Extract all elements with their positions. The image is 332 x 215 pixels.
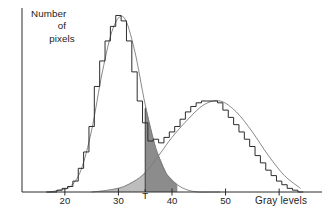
y-axis-label-line-2: of — [31, 20, 93, 32]
histogram-figure: Number of pixels Gray levels 2030T4050 — [0, 0, 332, 215]
x-axis-title: Gray levels — [255, 195, 307, 206]
y-axis-label-line-1: Number — [31, 8, 93, 20]
shaded-error-regions — [49, 105, 178, 192]
shaded-region-object-error-above-threshold — [145, 105, 177, 192]
curve-background-mode-gaussian — [92, 101, 301, 192]
y-axis-label: Number of pixels — [31, 8, 93, 45]
y-axis-label-line-3: pixels — [31, 33, 93, 45]
shaded-region-background-error-below-threshold — [49, 172, 145, 192]
